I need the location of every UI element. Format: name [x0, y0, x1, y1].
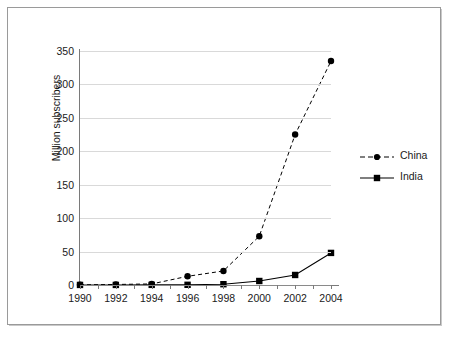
series-plot [80, 51, 331, 285]
x-tick-mark [331, 285, 332, 289]
data-point-china [328, 58, 334, 64]
legend-entry-india: India [360, 165, 440, 186]
legend-marker-dashed-circle-icon [360, 149, 394, 161]
x-tick-mark [206, 285, 207, 289]
legend-marker-solid-square-icon [360, 170, 394, 182]
legend-label-china: China [400, 149, 427, 161]
gridline [80, 151, 331, 152]
y-axis-title: Million subscribers [50, 53, 62, 183]
x-tick-mark [98, 285, 99, 289]
x-tick-mark [188, 285, 189, 289]
chart-figure: 050100150200250300350 Million subscriber… [0, 0, 450, 341]
data-point-china [256, 233, 262, 239]
x-tick-mark [134, 285, 135, 289]
x-tick-label: 1990 [68, 293, 91, 304]
y-tick-label: 100 [56, 213, 74, 224]
data-point-india [292, 272, 298, 278]
data-point-india [256, 278, 262, 284]
data-point-china [292, 131, 298, 137]
data-point-china [184, 273, 190, 279]
gridline [80, 118, 331, 119]
legend-label-india: India [400, 170, 423, 182]
x-tick-label: 2004 [319, 293, 342, 304]
x-tick-mark [277, 285, 278, 289]
chart-legend: China India [360, 144, 440, 186]
x-tick-label: 1994 [140, 293, 163, 304]
x-tick-mark [259, 285, 260, 289]
gridline [80, 252, 331, 253]
x-tick-mark [313, 285, 314, 289]
x-tick-mark [80, 285, 81, 289]
y-tick-label: 0 [68, 280, 74, 291]
x-tick-mark [295, 285, 296, 289]
gridline [80, 185, 331, 186]
x-tick-mark [223, 285, 224, 289]
x-tick-mark [116, 285, 117, 289]
figure-border: 050100150200250300350 Million subscriber… [7, 7, 441, 325]
gridline [80, 51, 331, 52]
data-point-china [220, 268, 226, 274]
plot-area [80, 51, 331, 285]
series-line-india [80, 253, 331, 285]
gridline [80, 218, 331, 219]
x-tick-label: 1996 [176, 293, 199, 304]
legend-entry-china: China [360, 144, 440, 165]
x-tick-label: 2000 [248, 293, 271, 304]
x-tick-mark [152, 285, 153, 289]
y-tick-label: 50 [62, 247, 74, 258]
gridline [80, 84, 331, 85]
x-tick-mark [241, 285, 242, 289]
x-tick-mark [170, 285, 171, 289]
x-tick-label: 1998 [212, 293, 235, 304]
x-tick-label: 1992 [104, 293, 127, 304]
x-tick-label: 2002 [283, 293, 306, 304]
x-axis-tick-labels: 19901992199419961998200020022004 [80, 293, 331, 309]
